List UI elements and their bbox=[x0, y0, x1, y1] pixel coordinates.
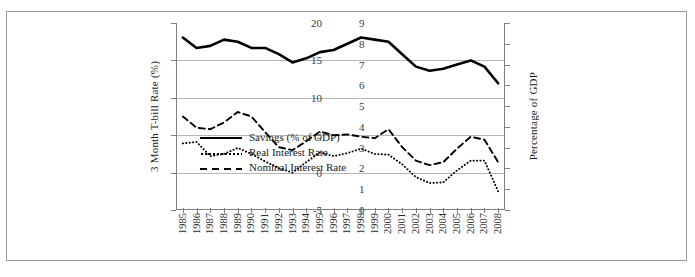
right-axis-title: Percentage of GDP bbox=[525, 23, 541, 210]
x-axis-tick-label: 2001 bbox=[396, 213, 407, 234]
x-axis-tick-label: 1996 bbox=[328, 213, 339, 234]
x-axis-tick-label: 2006 bbox=[465, 213, 476, 234]
left-axis-title-text: 3 Month T-bill Rate (%) bbox=[148, 61, 160, 172]
right-axis-tick-label: 2 bbox=[359, 162, 365, 174]
x-axis-tick-label: 1994 bbox=[300, 213, 311, 234]
x-axis-tick-label: 1991 bbox=[259, 213, 270, 234]
series-lines bbox=[176, 23, 505, 210]
legend-swatch-dotted-icon bbox=[198, 148, 244, 158]
legend-item-label: Savings (% of GDP) bbox=[249, 131, 340, 145]
x-axis-tick-label: 2005 bbox=[451, 213, 462, 234]
right-axis-tick bbox=[505, 85, 510, 86]
right-axis-tick bbox=[505, 65, 510, 66]
right-axis-title-text: Percentage of GDP bbox=[527, 72, 539, 160]
plot-area: Savings (% of GDP)Real Interest RateNomi… bbox=[176, 23, 505, 210]
right-axis-tick bbox=[505, 106, 510, 107]
right-axis-tick bbox=[505, 168, 510, 169]
right-axis-tick-label: 6 bbox=[359, 79, 365, 91]
x-axis-tick-label: 2003 bbox=[424, 213, 435, 234]
left-axis-title: 3 Month T-bill Rate (%) bbox=[146, 23, 162, 210]
x-axis-tick-label: 2000 bbox=[382, 213, 393, 234]
right-axis-tick bbox=[505, 44, 510, 45]
x-axis-tick-label: 1999 bbox=[369, 213, 380, 234]
left-axis-tick-label: 15 bbox=[311, 54, 322, 66]
right-axis-tick-label: 8 bbox=[359, 38, 365, 50]
left-axis-tick-label: 0 bbox=[317, 167, 323, 179]
right-axis-tick bbox=[505, 189, 510, 190]
series-line-solid bbox=[183, 38, 498, 84]
x-axis-tick-label: 1990 bbox=[245, 213, 256, 234]
x-axis-tick-label: 2008 bbox=[492, 213, 503, 234]
x-axis-tick-label: 1997 bbox=[341, 213, 352, 234]
x-axis-tick-label: 1989 bbox=[232, 213, 243, 234]
x-axis-tick-labels: 1985198619871988198919901991199219931994… bbox=[176, 213, 505, 271]
x-axis-tick-label: 2002 bbox=[410, 213, 421, 234]
x-axis-tick-label: 2007 bbox=[478, 213, 489, 234]
legend-swatch-dashed-icon bbox=[198, 163, 244, 173]
x-axis-tick-label: 1993 bbox=[287, 213, 298, 234]
right-axis-tick-label: 7 bbox=[359, 59, 365, 71]
right-axis-tick-label: 4 bbox=[359, 121, 365, 133]
legend-item-label: Nominal Interest Rate bbox=[249, 161, 346, 175]
x-axis-tick-label: 1992 bbox=[273, 213, 284, 234]
x-axis-tick-label: 2004 bbox=[437, 213, 448, 234]
right-axis-tick-label: 9 bbox=[359, 17, 365, 29]
right-axis-tick bbox=[505, 127, 510, 128]
x-axis-tick-label: 1998 bbox=[355, 213, 366, 234]
left-axis-tick-label: 5 bbox=[317, 129, 323, 141]
left-axis-tick-label: 20 bbox=[311, 17, 322, 29]
right-axis-tick-label: 1 bbox=[359, 183, 365, 195]
left-axis-tick-label: 10 bbox=[311, 92, 322, 104]
x-axis-tick-label: 1988 bbox=[218, 213, 229, 234]
right-axis-tick-label: 3 bbox=[359, 142, 365, 154]
left-axis-tick bbox=[171, 210, 176, 211]
legend-swatch-solid-icon bbox=[198, 133, 244, 143]
right-axis-tick bbox=[505, 210, 510, 211]
chart-page: 3 Month T-bill Rate (%) Percentage of GD… bbox=[0, 0, 695, 277]
right-axis-tick bbox=[505, 23, 510, 24]
right-axis-tick bbox=[505, 148, 510, 149]
x-axis-tick-label: 1987 bbox=[204, 213, 215, 234]
x-axis-tick-label: 1986 bbox=[191, 213, 202, 234]
x-axis-tick-label: 1985 bbox=[177, 213, 188, 234]
right-axis-tick-label: 5 bbox=[359, 100, 365, 112]
x-axis-tick-label: 1995 bbox=[314, 213, 325, 234]
legend-item-label: Real Interest Rate bbox=[249, 146, 328, 160]
